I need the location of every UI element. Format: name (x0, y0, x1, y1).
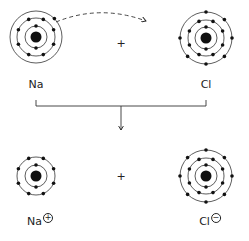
electron-transfer-arrow (56, 13, 146, 22)
sodium-ion-symbol: Na (27, 215, 42, 228)
plus-sign-top: + (116, 37, 125, 50)
chloride-ion (178, 148, 234, 204)
sodium-ion (17, 157, 56, 196)
sodium-atom (10, 11, 62, 63)
sodium-label: Na (29, 78, 44, 91)
negative-charge-icon: − (211, 213, 221, 223)
reaction-bracket (36, 100, 206, 130)
sodium-ion-label: Na+ (27, 213, 53, 228)
chlorine-label: Cl (201, 78, 212, 91)
chlorine-atom (178, 10, 234, 66)
chloride-ion-symbol: Cl (199, 215, 210, 228)
plus-sign-bottom: + (116, 170, 125, 183)
chloride-ion-label: Cl− (199, 213, 221, 228)
positive-charge-icon: + (43, 213, 53, 223)
